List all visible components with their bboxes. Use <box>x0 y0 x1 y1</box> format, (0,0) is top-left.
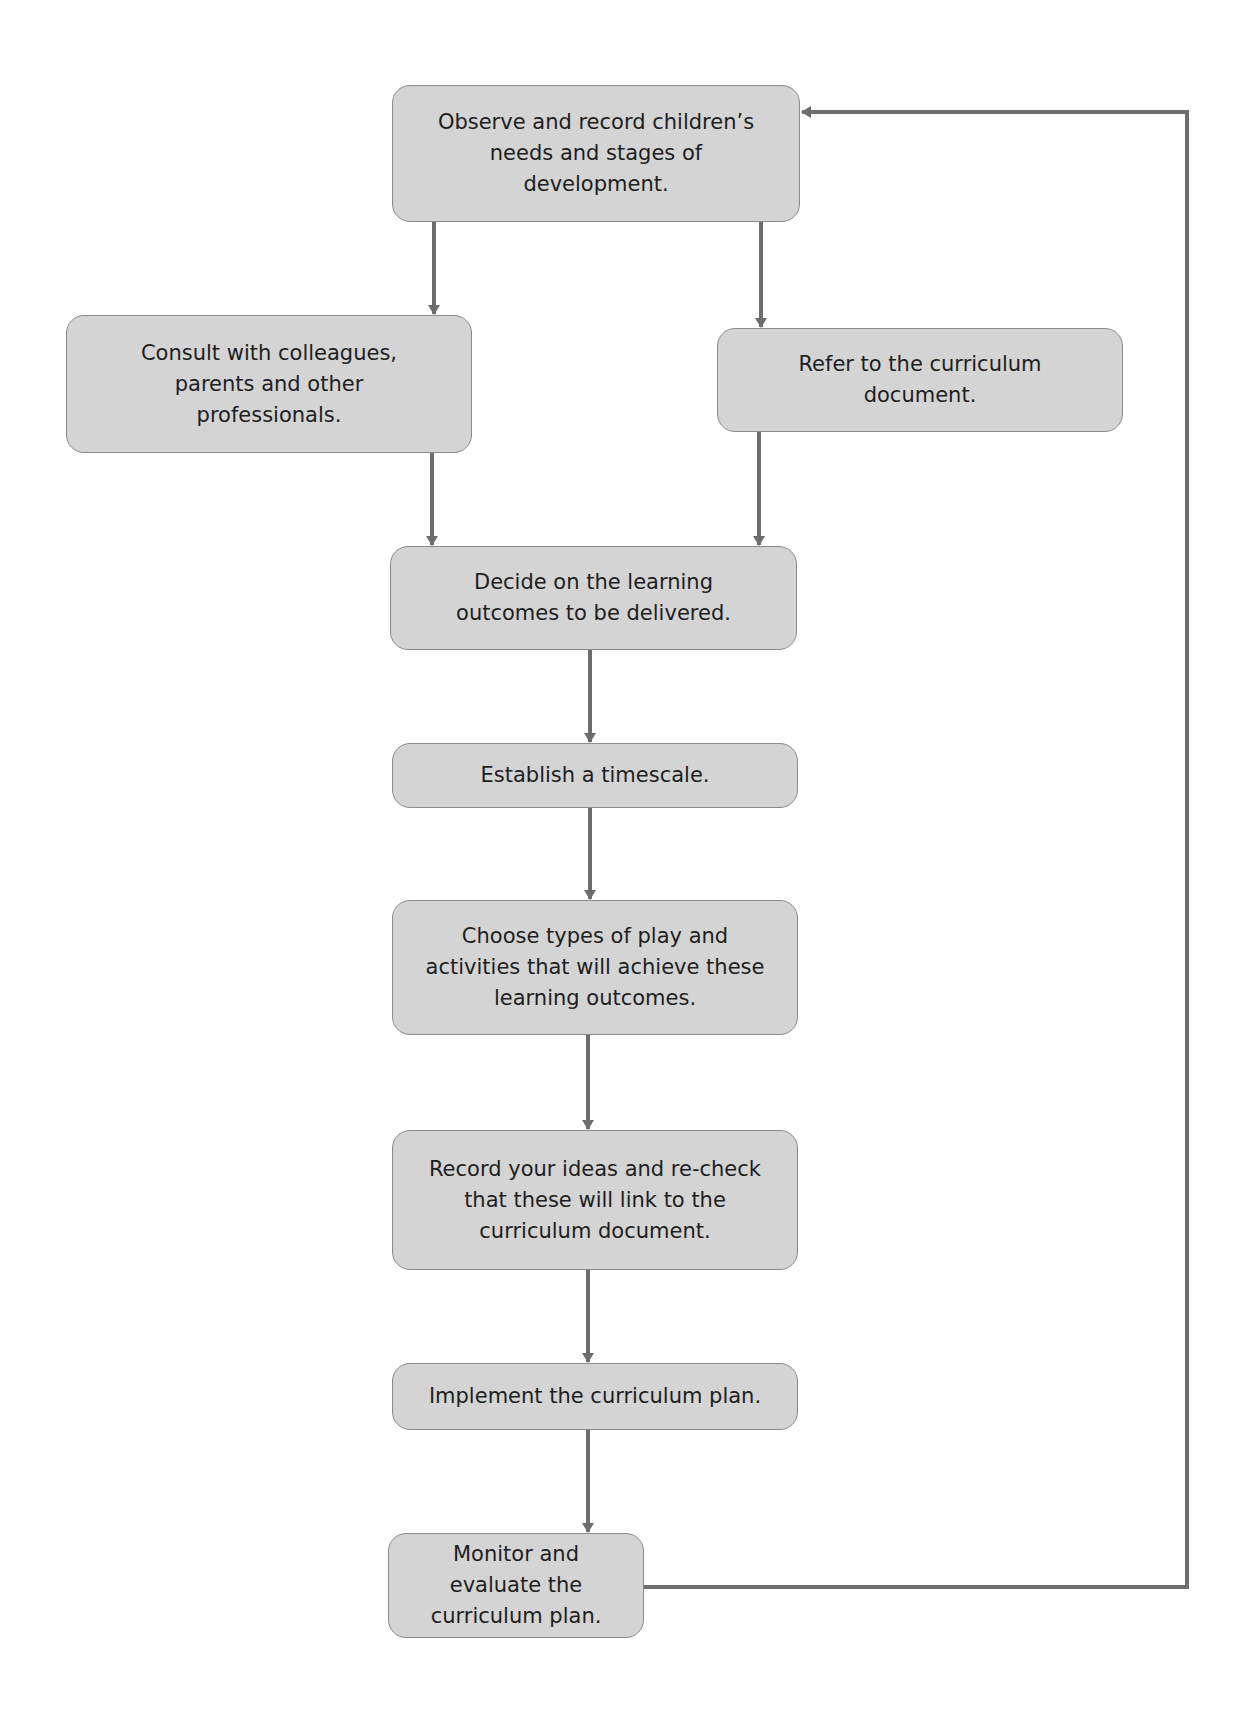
node-refer-text: Refer to the curriculum document. <box>778 349 1062 411</box>
node-refer: Refer to the curriculum document. <box>717 328 1123 432</box>
node-decide: Decide on the learning outcomes to be de… <box>390 546 797 650</box>
node-record: Record your ideas and re-check that thes… <box>392 1130 798 1270</box>
node-implement-text: Implement the curriculum plan. <box>429 1381 761 1412</box>
node-decide-text: Decide on the learning outcomes to be de… <box>431 567 756 629</box>
connector-layer <box>0 0 1250 1709</box>
node-record-text: Record your ideas and re-check that thes… <box>417 1154 773 1247</box>
node-timescale-text: Establish a timescale. <box>480 760 709 791</box>
node-timescale: Establish a timescale. <box>392 743 798 808</box>
node-observe: Observe and record children’s needs and … <box>392 85 800 222</box>
node-consult: Consult with colleagues, parents and oth… <box>66 315 472 453</box>
node-observe-text: Observe and record children’s needs and … <box>423 107 769 200</box>
node-monitor: Monitor and evaluate the curriculum plan… <box>388 1533 644 1638</box>
node-implement: Implement the curriculum plan. <box>392 1363 798 1430</box>
node-choose: Choose types of play and activities that… <box>392 900 798 1035</box>
node-monitor-text: Monitor and evaluate the curriculum plan… <box>409 1539 623 1632</box>
node-choose-text: Choose types of play and activities that… <box>413 921 777 1014</box>
node-consult-text: Consult with colleagues, parents and oth… <box>123 338 415 431</box>
